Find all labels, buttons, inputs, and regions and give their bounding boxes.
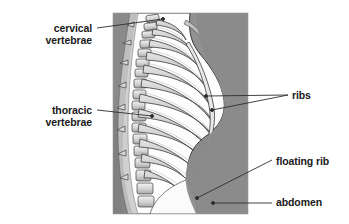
leader-dot-thoracic bbox=[151, 115, 154, 118]
label-thoracic-vertebrae: thoracicvertebrae bbox=[6, 104, 92, 128]
leader-dot-ribs-a bbox=[205, 95, 208, 98]
label-floating-rib: floating rib bbox=[276, 155, 348, 167]
label-line-1: thoracic bbox=[52, 104, 92, 116]
illustration-panel bbox=[113, 13, 248, 214]
leader-dot-abdomen bbox=[212, 202, 215, 205]
label-cervical-vertebrae: cervicalvertebrae bbox=[6, 22, 92, 46]
label-abdomen: abdomen bbox=[276, 196, 348, 208]
leader-dot-floating-rib bbox=[196, 197, 199, 200]
leader-dot-cervical bbox=[162, 18, 165, 21]
label-ribs: ribs bbox=[292, 89, 347, 101]
label-line-2: vertebrae bbox=[46, 116, 92, 128]
label-line-2: vertebrae bbox=[46, 34, 92, 46]
label-line-1: cervical bbox=[54, 22, 92, 34]
leader-dot-ribs-b bbox=[211, 109, 214, 112]
